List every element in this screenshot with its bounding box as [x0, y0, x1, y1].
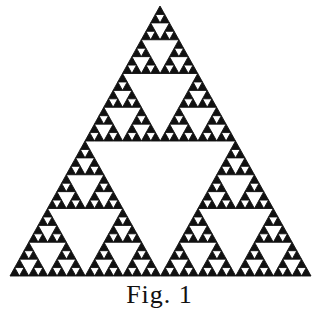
- triangle: [179, 116, 188, 124]
- triangle: [217, 183, 226, 191]
- triangle: [48, 268, 57, 276]
- triangle: [104, 234, 113, 242]
- triangle: [245, 166, 254, 174]
- triangle: [188, 65, 197, 73]
- triangle: [189, 268, 198, 276]
- triangle: [141, 133, 150, 141]
- triangle: [141, 116, 150, 124]
- triangle: [132, 48, 141, 56]
- triangle: [165, 259, 174, 267]
- triangle: [66, 183, 75, 191]
- triangle: [118, 74, 127, 82]
- triangle: [283, 234, 292, 242]
- triangle: [203, 259, 212, 267]
- triangle: [165, 57, 174, 65]
- triangle: [198, 200, 207, 208]
- triangle: [104, 251, 113, 259]
- triangle: [57, 183, 66, 191]
- triangle: [38, 217, 47, 225]
- triangle: [33, 225, 42, 233]
- triangle: [94, 116, 103, 124]
- triangle: [264, 217, 273, 225]
- triangle: [179, 133, 188, 141]
- triangle: [207, 99, 216, 107]
- triangle: [109, 192, 118, 200]
- triangle: [264, 268, 273, 276]
- triangle: [203, 124, 212, 132]
- triangle: [66, 166, 75, 174]
- triangle: [203, 192, 212, 200]
- triangle: [123, 234, 132, 242]
- triangle: [151, 65, 160, 73]
- triangle: [255, 268, 264, 276]
- triangle: [151, 268, 160, 276]
- triangle: [278, 225, 287, 233]
- triangle: [95, 268, 104, 276]
- triangle: [71, 158, 80, 166]
- triangle: [66, 251, 75, 259]
- triangle: [66, 200, 75, 208]
- triangle: [29, 268, 38, 276]
- triangle: [29, 251, 38, 259]
- triangle: [94, 133, 103, 141]
- triangle: [198, 234, 207, 242]
- triangle: [113, 268, 122, 276]
- triangle: [245, 200, 254, 208]
- triangle: [217, 268, 226, 276]
- triangle: [99, 107, 108, 115]
- triangle: [169, 31, 178, 39]
- triangle: [52, 259, 61, 267]
- triangle: [66, 268, 75, 276]
- triangle: [236, 149, 245, 157]
- triangle: [264, 234, 273, 242]
- triangle: [85, 268, 94, 276]
- triangle: [165, 23, 174, 31]
- triangle: [48, 217, 57, 225]
- triangle: [29, 234, 38, 242]
- triangle: [132, 234, 141, 242]
- triangle: [132, 116, 141, 124]
- triangle: [71, 259, 80, 267]
- triangle: [108, 90, 117, 98]
- triangle: [259, 192, 268, 200]
- triangle: [132, 251, 141, 259]
- triangle: [142, 251, 151, 259]
- triangle: [236, 268, 245, 276]
- triangle: [250, 242, 259, 250]
- triangle: [254, 183, 263, 191]
- triangle: [170, 251, 179, 259]
- triangle: [123, 65, 132, 73]
- triangle: [170, 268, 179, 276]
- triangle: [165, 124, 174, 132]
- triangle: [170, 48, 179, 56]
- triangle: [85, 149, 94, 157]
- triangle: [104, 200, 113, 208]
- triangle: [95, 200, 104, 208]
- triangle: [76, 200, 85, 208]
- triangle: [90, 124, 99, 132]
- triangle: [160, 14, 169, 22]
- triangle: [240, 192, 249, 200]
- triangle: [113, 133, 122, 141]
- triangle: [127, 124, 136, 132]
- triangle: [113, 99, 122, 107]
- triangle: [34, 259, 43, 267]
- triangle: [19, 251, 28, 259]
- triangle: [193, 209, 202, 217]
- triangle: [104, 268, 113, 276]
- triangle: [90, 259, 99, 267]
- triangle: [141, 31, 150, 39]
- triangle: [104, 99, 113, 107]
- triangle: [57, 268, 66, 276]
- triangle: [207, 234, 216, 242]
- triangle: [85, 166, 94, 174]
- triangle: [226, 166, 235, 174]
- triangle: [43, 209, 52, 217]
- triangle: [273, 268, 282, 276]
- triangle: [128, 259, 137, 267]
- triangle: [203, 90, 212, 98]
- triangle: [198, 217, 207, 225]
- triangle: [161, 268, 170, 276]
- triangle: [259, 225, 268, 233]
